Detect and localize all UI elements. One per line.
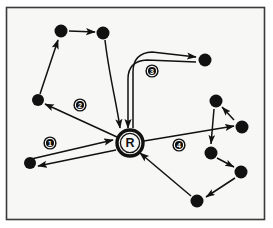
customer-node-right-mid[interactable]: [205, 147, 218, 160]
route-label-3[interactable]: 3: [145, 64, 158, 77]
depot-label: R: [125, 136, 134, 150]
diagram-canvas: R 1 2 3 4: [0, 0, 273, 228]
customer-node-bottom-left[interactable]: [24, 157, 36, 169]
customer-node-right-far[interactable]: [236, 121, 249, 134]
routing-diagram-figure: R 1 2 3 4: [0, 0, 273, 228]
figure-border: [7, 8, 265, 220]
customer-node-top-left[interactable]: [55, 25, 68, 38]
customer-node-bottom-right[interactable]: [191, 195, 204, 208]
route-label-3-text: 3: [150, 68, 154, 75]
route-label-2[interactable]: 2: [73, 98, 86, 111]
route-label-4[interactable]: 4: [172, 138, 185, 151]
customer-node-right-lower[interactable]: [235, 166, 248, 179]
route-label-1[interactable]: 1: [43, 136, 56, 149]
customer-node-right-upper[interactable]: [210, 95, 223, 108]
route-label-4-text: 4: [177, 142, 181, 149]
customer-node-top-center[interactable]: [97, 27, 110, 40]
depot-node[interactable]: R: [117, 130, 143, 156]
customer-node-right-top[interactable]: [199, 54, 212, 67]
edge-2-topleft-to-top[interactable]: [69, 31, 95, 32]
customer-node-left-middle[interactable]: [32, 94, 44, 106]
route-label-2-text: 2: [78, 102, 82, 109]
route-label-1-text: 1: [48, 140, 52, 147]
